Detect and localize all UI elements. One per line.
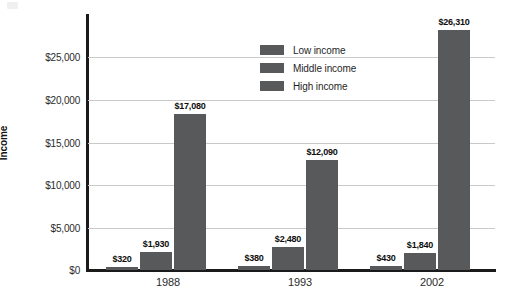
legend-item-low-income: Low income [260,42,356,58]
bar-1993-low-income [238,266,270,270]
y-tick-label: $0 [69,265,80,276]
x-tick-label-2002: 2002 [402,276,462,288]
gridline [88,228,495,229]
y-tick-label: $10,000 [45,180,80,191]
bar-2002-low-income [370,266,402,270]
y-tick-label: $5,000 [51,223,80,234]
legend-swatch-icon [260,45,284,55]
y-tick-label: $20,000 [45,95,80,106]
legend-label: Middle income [293,63,356,74]
bar-1993-high-income [306,160,338,270]
bar-value-label: $12,090 [292,147,352,157]
bar-1988-high-income [174,114,206,270]
legend: Low income Middle income High income [260,42,356,96]
y-axis-tick-labels: $25,000 $20,000 $15,000 $10,000 $5,000 $… [0,0,80,297]
legend-label: High income [293,81,347,92]
bar-1988-middle-income [140,252,172,270]
bar-value-label: $26,310 [424,17,484,27]
gridline [88,100,495,101]
legend-item-high-income: High income [260,78,356,94]
x-tick-label-1988: 1988 [138,276,198,288]
gridline [88,143,495,144]
y-tick-label: $25,000 [45,52,80,63]
legend-item-middle-income: Middle income [260,60,356,76]
bar-1993-middle-income [272,247,304,270]
legend-swatch-icon [260,81,284,91]
bar-chart: Income $25,000 $20,000 $15,000 $10,000 $… [0,0,508,297]
legend-label: Low income [293,45,345,56]
bar-1988-low-income [106,267,138,270]
bar-2002-middle-income [404,253,436,270]
bar-value-label: $17,080 [160,101,220,111]
y-tick-label: $15,000 [45,138,80,149]
x-tick-label-1993: 1993 [270,276,330,288]
bar-2002-high-income [438,30,470,270]
gridline [88,185,495,186]
legend-swatch-icon [260,63,284,73]
